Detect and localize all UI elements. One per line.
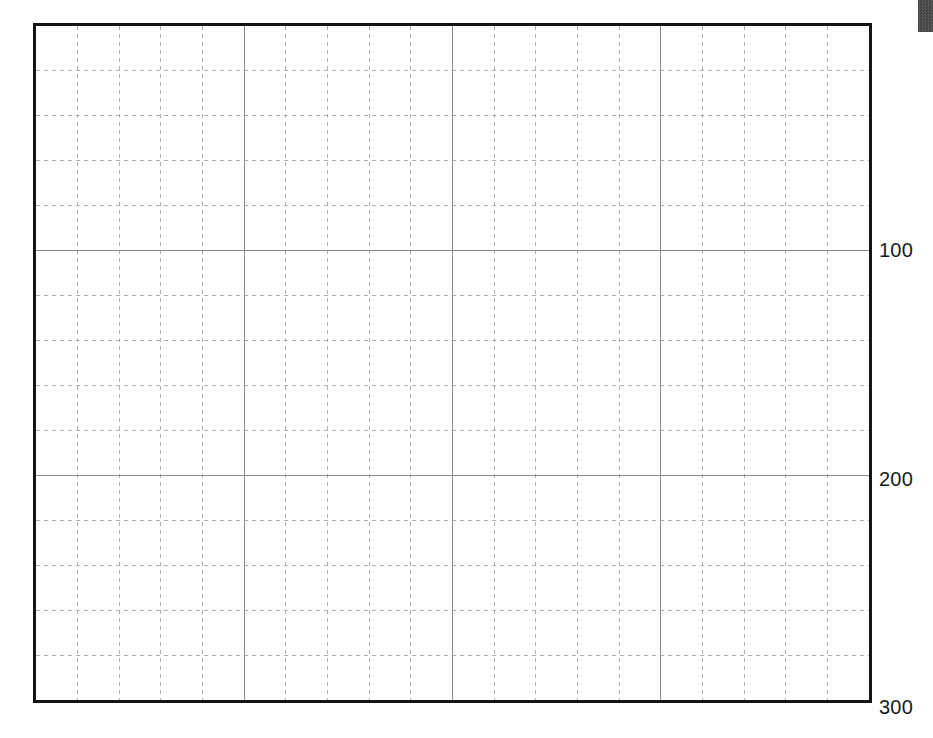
plot-frame	[33, 23, 872, 703]
grid-svg	[36, 26, 869, 700]
y-tick-label-200: 200	[879, 469, 913, 489]
major-vertical-gridlines	[244, 26, 661, 700]
y-tick-label-100: 100	[879, 240, 913, 260]
page-canvas: 100 200 300	[0, 0, 933, 738]
y-axis-tick-labels: 100 200 300	[879, 0, 933, 738]
grid-layer	[36, 26, 869, 700]
y-tick-label-300: 300	[879, 697, 913, 717]
